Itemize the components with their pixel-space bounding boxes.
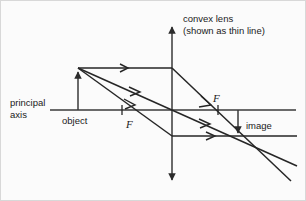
ray-parallel-refracted-arrowhead: [199, 96, 211, 107]
convex-lens-subtitle-label: (shown as thin line): [183, 25, 265, 36]
principal-axis-label-line2: axis: [10, 109, 27, 120]
ray-diagram-canvas: convex lens (shown as thin line) princip…: [0, 0, 306, 201]
ray-parallel-refracted: [172, 68, 291, 181]
focal-point-label-right: F: [212, 92, 220, 104]
principal-axis-label-line1: principal: [10, 97, 45, 108]
object-label: object: [62, 115, 88, 126]
convex-lens-title-label: convex lens: [183, 13, 233, 24]
image-label: image: [246, 120, 272, 131]
ray-diagram-figure: convex lens (shown as thin line) princip…: [0, 0, 306, 201]
focal-point-label-left: F: [125, 118, 133, 130]
ray-focal-incident: [78, 68, 172, 136]
